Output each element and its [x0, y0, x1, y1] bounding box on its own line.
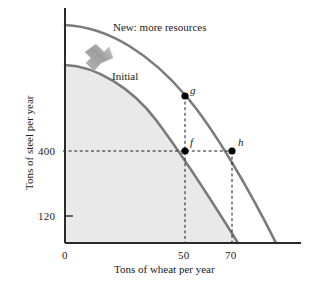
- point-label-h: h: [238, 137, 244, 148]
- point-label-g: g: [190, 85, 196, 96]
- initial-frontier-label: Initial: [112, 71, 138, 82]
- shaded-attainable-region: [65, 65, 238, 243]
- x-tick-label-0: 0: [62, 250, 68, 261]
- x-tick-label-50: 50: [178, 250, 189, 261]
- ppf-figure: New: more resources Initial g f h 400 12…: [0, 0, 311, 284]
- y-axis-title: Tons of steel per year: [24, 95, 35, 190]
- ppf-chart-canvas: [0, 0, 311, 284]
- new-frontier-label: New: more resources: [113, 22, 206, 33]
- data-point-h: [228, 147, 235, 154]
- x-tick-label-70: 70: [225, 250, 236, 261]
- point-label-f: f: [190, 137, 193, 148]
- data-point-f: [181, 147, 188, 154]
- y-tick-label-400: 400: [38, 146, 55, 157]
- x-axis-title: Tons of wheat per year: [114, 264, 215, 275]
- shift-arrow-icon: [85, 44, 113, 71]
- y-tick-label-120: 120: [38, 211, 55, 222]
- data-point-g: [181, 92, 188, 99]
